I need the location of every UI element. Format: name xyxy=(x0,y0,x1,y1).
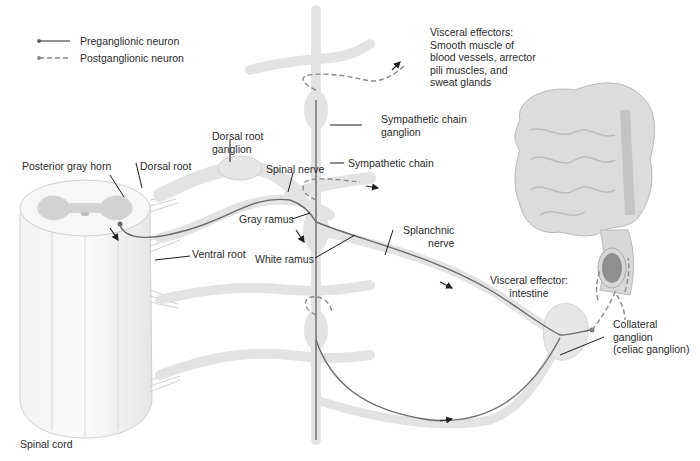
label-dorsal-root-ganglion: Dorsal root ganglion xyxy=(212,130,263,155)
sympathetic-pathway-diagram: Preganglionic neuron Postganglionic neur… xyxy=(0,0,700,461)
label-ventral-root: Ventral root xyxy=(192,248,246,261)
label-visceral-effector-intestine: Visceral effector: intestine xyxy=(490,274,568,299)
diagram-canvas xyxy=(0,0,700,461)
spinal-cord xyxy=(20,180,180,438)
legend-item-postganglionic: Postganglionic neuron xyxy=(36,52,184,64)
label-splanchnic-nerve: Splanchnic nerve xyxy=(403,224,454,249)
label-posterior-gray-horn: Posterior gray horn xyxy=(22,160,111,173)
label-visceral-effectors-top: Visceral effectors: Smooth muscle of blo… xyxy=(430,26,536,89)
dorsal-root-ganglion-shape xyxy=(218,156,262,180)
solid-line-icon xyxy=(36,38,72,44)
intestine-illustration xyxy=(515,83,654,295)
label-sympathetic-chain: Sympathetic chain xyxy=(348,157,434,170)
legend-item-preganglionic: Preganglionic neuron xyxy=(36,35,179,47)
label-gray-ramus: Gray ramus xyxy=(239,213,294,226)
legend-label: Preganglionic neuron xyxy=(80,35,179,47)
label-spinal-nerve: Spinal nerve xyxy=(266,163,324,176)
label-spinal-cord: Spinal cord xyxy=(20,438,73,451)
label-dorsal-root: Dorsal root xyxy=(140,160,191,173)
label-collateral-ganglion: Collateral ganglion (celiac ganglion) xyxy=(613,318,689,356)
label-white-ramus: White ramus xyxy=(255,253,314,266)
label-sympathetic-chain-ganglion: Sympathetic chain ganglion xyxy=(381,113,467,138)
dashed-line-icon xyxy=(36,55,72,61)
legend-label: Postganglionic neuron xyxy=(80,52,184,64)
